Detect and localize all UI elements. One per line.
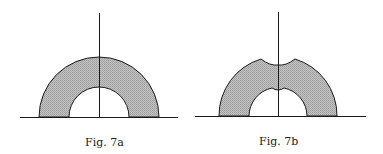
- caption-fig-7a: Fig. 7a: [85, 136, 124, 149]
- figure-7b: [195, 12, 366, 117]
- figure-canvas: [0, 0, 383, 154]
- caption-fig-7b: Fig. 7b: [259, 135, 298, 148]
- figure-7a: [20, 13, 178, 118]
